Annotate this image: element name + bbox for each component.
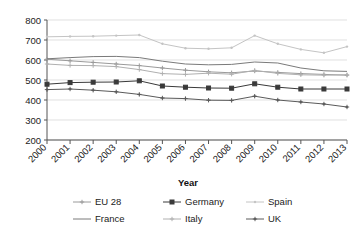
legend-label: Germany	[185, 196, 224, 207]
data-point	[207, 86, 211, 90]
series-layer	[45, 34, 349, 109]
data-point	[346, 45, 348, 47]
data-point	[161, 43, 163, 45]
x-tick-label: 2007	[187, 142, 210, 165]
x-axis-tick-marks	[47, 140, 347, 144]
legend-item-germany[interactable]: Germany	[163, 196, 224, 207]
data-point	[207, 48, 209, 50]
data-point	[160, 84, 164, 88]
data-point	[183, 85, 187, 89]
data-point	[45, 82, 49, 86]
x-tick-label: 2011	[280, 142, 302, 164]
legend-item-uk[interactable]: UK	[246, 213, 282, 224]
data-point	[346, 106, 348, 108]
data-point	[138, 34, 140, 36]
legend-label: EU 28	[95, 196, 121, 207]
x-tick-label: 2013	[326, 142, 349, 165]
data-point	[253, 34, 255, 36]
x-tick-label: 2005	[141, 142, 164, 165]
y-tick-label: 600	[25, 55, 41, 66]
data-point	[277, 43, 279, 45]
legend-label: France	[95, 213, 125, 224]
data-point	[46, 36, 48, 38]
legend-item-eu-28[interactable]: EU 28	[73, 196, 121, 207]
x-tick-label: 2003	[95, 142, 118, 165]
legend-item-italy[interactable]: Italy	[163, 213, 203, 224]
x-tick-label: 2012	[303, 142, 326, 165]
y-tick-label: 500	[25, 75, 41, 86]
x-axis-tick-labels: 2000200120022003200420052006200720082009…	[26, 142, 349, 165]
series-line	[47, 56, 347, 71]
legend-label: UK	[268, 213, 282, 224]
data-point	[231, 99, 233, 101]
legend-item-france[interactable]: France	[73, 213, 125, 224]
data-point	[114, 80, 118, 84]
series-spain	[46, 34, 348, 54]
x-tick-label: 2010	[256, 142, 279, 165]
data-point	[115, 34, 117, 36]
x-tick-label: 2008	[210, 142, 233, 165]
data-point	[254, 218, 256, 220]
data-point	[92, 89, 94, 91]
x-tick-label: 2004	[118, 142, 141, 165]
y-tick-label: 800	[25, 15, 41, 26]
data-point	[322, 87, 326, 91]
data-point	[137, 79, 141, 83]
data-point	[69, 35, 71, 37]
data-point	[208, 99, 210, 101]
data-point	[230, 86, 234, 90]
y-tick-label: 300	[25, 115, 41, 126]
line-chart: 200300400500600700800 200020012002200320…	[0, 0, 358, 240]
series-germany	[45, 79, 349, 91]
x-axis-title: Year	[178, 177, 198, 188]
legend-label: Italy	[185, 213, 203, 224]
data-point	[345, 87, 349, 91]
data-point	[184, 98, 186, 100]
data-point	[300, 48, 302, 50]
data-point	[254, 95, 256, 97]
y-axis-tick-labels: 200300400500600700800	[25, 15, 41, 146]
data-point	[254, 201, 256, 203]
data-point	[115, 91, 117, 93]
data-point	[300, 101, 302, 103]
chart-legend: EU 28GermanySpainFranceItalyUK	[73, 196, 292, 224]
data-point	[184, 47, 186, 49]
x-tick-label: 2001	[49, 142, 72, 165]
y-tick-label: 400	[25, 95, 41, 106]
data-point	[46, 89, 48, 91]
data-point	[323, 103, 325, 105]
data-point	[276, 85, 280, 89]
data-point	[299, 87, 303, 91]
x-tick-label: 2002	[72, 142, 95, 165]
series-line	[47, 59, 347, 75]
legend-label: Spain	[268, 196, 292, 207]
data-point	[253, 82, 257, 86]
data-point	[170, 200, 174, 204]
data-point	[69, 88, 71, 90]
data-point	[161, 97, 163, 99]
data-point	[91, 80, 95, 84]
data-point	[68, 81, 72, 85]
data-point	[92, 35, 94, 37]
legend-item-spain[interactable]: Spain	[246, 196, 292, 207]
x-tick-label: 2009	[233, 142, 256, 165]
data-point	[230, 47, 232, 49]
y-tick-label: 700	[25, 35, 41, 46]
data-point	[323, 52, 325, 54]
series-uk	[45, 87, 349, 109]
data-point	[138, 93, 140, 95]
chart-figure: 200300400500600700800 200020012002200320…	[0, 0, 358, 240]
series-line	[47, 89, 347, 107]
x-tick-label: 2006	[164, 142, 187, 165]
series-line	[47, 35, 347, 53]
data-point	[277, 99, 279, 101]
series-france	[47, 56, 347, 71]
